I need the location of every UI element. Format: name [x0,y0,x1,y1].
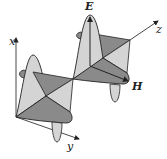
z-axis [130,21,158,40]
z-axis-label: z [156,24,162,35]
h-vector-label: H [132,81,142,92]
em-wave-diagram: x y z E H [0,0,167,159]
y-axis-label: y [67,141,73,152]
e-field-lobe-down-1 [52,122,62,142]
x-axis-label: x [9,36,15,47]
e-field-lobe-down-2 [110,84,120,102]
e-vector-label: E [85,1,93,12]
